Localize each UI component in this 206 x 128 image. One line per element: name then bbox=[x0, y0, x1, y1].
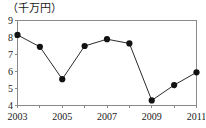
data-point bbox=[149, 97, 155, 103]
data-point bbox=[171, 82, 177, 88]
data-point-markers bbox=[14, 32, 199, 104]
data-point bbox=[14, 32, 20, 38]
x-tick-label: 2003 bbox=[8, 111, 28, 122]
data-point bbox=[37, 44, 43, 50]
x-axis-tick-labels: 20032005200720092011 bbox=[8, 111, 206, 122]
x-tick-label: 2005 bbox=[52, 111, 72, 122]
y-tick-label: 7 bbox=[8, 49, 13, 60]
y-axis-tick-labels: 456789 bbox=[8, 15, 13, 111]
data-point bbox=[126, 40, 132, 46]
x-tick-label: 2009 bbox=[142, 111, 162, 122]
x-tick-label: 2007 bbox=[97, 111, 117, 122]
y-tick-label: 5 bbox=[8, 83, 13, 94]
line-chart-svg: 456789 20032005200720092011 bbox=[0, 0, 205, 128]
chart-figure: （千万円） 456789 20032005200720092011 bbox=[0, 0, 205, 128]
y-tick-label: 6 bbox=[8, 66, 13, 77]
data-point bbox=[193, 69, 199, 75]
y-tick-label: 8 bbox=[8, 32, 13, 43]
data-point bbox=[59, 76, 65, 82]
y-tick-label: 4 bbox=[8, 100, 13, 111]
plot-area: 456789 20032005200720092011 bbox=[0, 0, 205, 128]
data-point bbox=[82, 43, 88, 49]
data-series-line bbox=[18, 35, 197, 100]
data-point bbox=[104, 36, 110, 42]
x-tick-label: 2011 bbox=[187, 111, 205, 122]
y-tick-label: 9 bbox=[8, 15, 13, 26]
axis-frame bbox=[18, 21, 197, 106]
